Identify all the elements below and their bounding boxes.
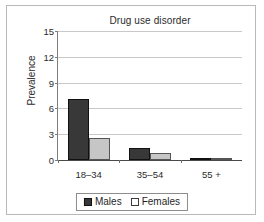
bar-males-2[interactable] (190, 158, 211, 160)
y-tick-label: 0 (49, 155, 54, 166)
bar-group: 55 + (181, 31, 242, 160)
legend-label: Females (142, 196, 180, 207)
bar-group: 35–54 (119, 31, 180, 160)
bar-males-1[interactable] (129, 148, 150, 160)
y-axis-label: Prevalence (26, 41, 37, 121)
legend-label: Males (95, 196, 122, 207)
y-tick-label: 15 (43, 26, 54, 37)
x-tick-mark (119, 160, 120, 163)
legend-swatch-males-icon (84, 198, 92, 206)
bar-group: 18–34 (58, 31, 119, 160)
x-tick-label: 35–54 (119, 169, 180, 180)
chart-legend: MalesFemales (76, 193, 188, 211)
bar-females-2[interactable] (211, 158, 232, 160)
bar-pair (119, 31, 180, 160)
x-tick-mark (181, 160, 182, 163)
y-tick-label: 6 (49, 103, 54, 114)
bar-pair (58, 31, 119, 160)
bar-groups: 18–3435–5455 + (58, 31, 242, 160)
x-tick-label: 55 + (181, 169, 242, 180)
x-tick-mark (58, 160, 59, 163)
legend-swatch-females-icon (131, 198, 139, 206)
x-tick-label: 18–34 (58, 169, 119, 180)
bar-pair (181, 31, 242, 160)
y-tick-label: 9 (49, 77, 54, 88)
legend-item-males[interactable]: Males (84, 196, 122, 207)
legend-item-females[interactable]: Females (131, 196, 180, 207)
bar-females-0[interactable] (89, 138, 110, 160)
plot-area: 03691215 18–3435–5455 + (57, 31, 242, 161)
chart-figure: Drug use disorder Prevalence 03691215 18… (0, 0, 264, 222)
bar-males-0[interactable] (68, 99, 89, 160)
chart-title: Drug use disorder (60, 15, 240, 26)
y-tick-label: 3 (49, 129, 54, 140)
y-tick-label: 12 (43, 51, 54, 62)
bar-females-1[interactable] (150, 153, 171, 160)
